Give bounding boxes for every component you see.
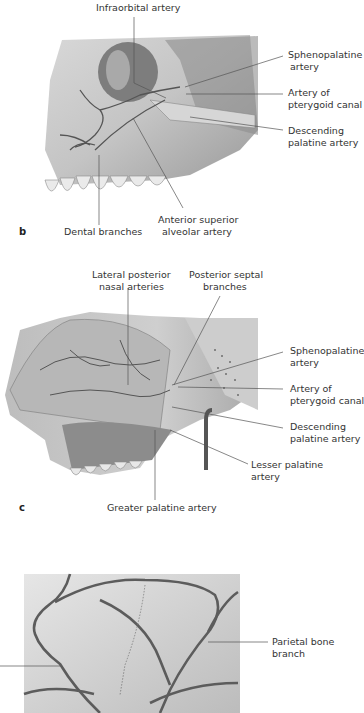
label-lateral-posterior-nasal-arteries-line1: Lateral posterior [92,269,171,281]
label-dental-branches: Dental branches [64,226,142,238]
label-pterygoid-canal-artery-c-line1: Artery of [290,383,332,395]
parietal-illustration [24,574,240,713]
label-descending-palatine-artery-b-line1: Descending [288,125,344,137]
label-descending-palatine-artery-c-line2: palatine artery [290,433,360,445]
label-lesser-palatine-artery-line2: artery [251,471,280,483]
label-infraorbital-artery: Infraorbital artery [96,2,180,14]
label-pterygoid-canal-artery-b-line1: Artery of [288,87,330,99]
label-posterior-septal-branches-line2: branches [203,281,247,293]
maxilla-illustration [45,35,258,191]
label-descending-palatine-artery-b-line2: palatine artery [288,137,358,149]
label-anterior-superior-alveolar-artery-line1: Anterior superior [158,214,238,226]
label-parietal-bone-branch-line1: Parietal bone [272,636,334,648]
label-lesser-palatine-artery-line1: Lesser palatine [251,459,323,471]
label-greater-palatine-artery: Greater palatine artery [107,502,217,514]
label-lateral-posterior-nasal-arteries-line2: nasal arteries [99,281,164,293]
label-sphenopalatine-artery-b-line2: artery [290,61,319,73]
label-descending-palatine-artery-c-line1: Descending [290,421,346,433]
label-pterygoid-canal-artery-c-line2: pterygoid canal [290,395,364,407]
panel-letter-c: c [19,502,25,513]
label-anterior-superior-alveolar-artery-line2: alveolar artery [162,226,232,238]
label-sphenopalatine-artery-b-line1: Sphenopalatine [288,49,362,61]
label-pterygoid-canal-artery-b-line2: pterygoid canal [288,99,362,111]
label-posterior-septal-branches-line1: Posterior septal [189,269,263,281]
label-sphenopalatine-artery-c-line2: artery [290,357,319,369]
panel-letter-b: b [19,226,26,237]
label-sphenopalatine-artery-c-line1: Sphenopalatine [290,345,364,357]
nasal-cavity-illustration [5,312,258,475]
label-parietal-bone-branch-line2: branch [272,648,305,660]
